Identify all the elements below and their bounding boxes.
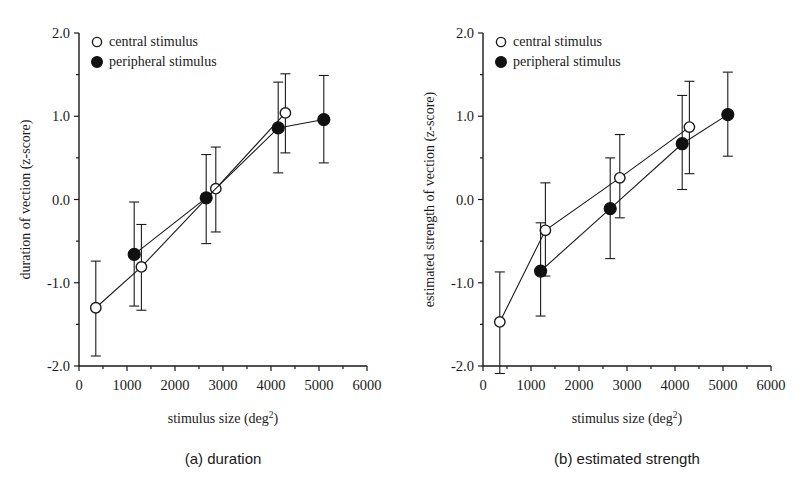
x-axis-label-tail: ) [678, 411, 683, 427]
y-tick-label: 0.0 [52, 192, 70, 208]
legend-label-peripheral: peripheral stimulus [109, 54, 217, 69]
x-tick-label: 2000 [161, 377, 190, 393]
x-tick-label: 1000 [113, 377, 142, 393]
data-point-central [495, 317, 505, 327]
x-axis-label-tail: ) [274, 411, 279, 427]
data-point-central [91, 303, 101, 313]
y-axis-label: duration of vection (z-score) [18, 119, 34, 279]
x-tick-label: 5000 [709, 377, 738, 393]
panel-caption: (b) estimated strength [554, 450, 700, 467]
x-tick-label: 6000 [353, 377, 382, 393]
panel-caption-text: duration [207, 450, 261, 467]
y-tick-label: 1.0 [456, 108, 474, 124]
legend-label-peripheral: peripheral stimulus [513, 54, 621, 69]
x-tick-label: 5000 [305, 377, 334, 393]
data-point-peripheral [722, 109, 734, 121]
duration-chart-svg: -2.0-1.00.01.02.001000200030004000500060… [0, 0, 404, 483]
x-axis-label-main: stimulus size (deg [572, 411, 673, 427]
x-tick-label: 4000 [661, 377, 690, 393]
data-point-central [280, 108, 290, 118]
y-tick-label: 2.0 [456, 25, 474, 41]
figure-container: -2.0-1.00.01.02.001000200030004000500060… [0, 0, 808, 483]
series-line-peripheral [134, 120, 324, 255]
legend-marker-central [496, 37, 505, 46]
panel-caption-text: estimated strength [577, 450, 700, 467]
panel-caption-tag: (b) [554, 450, 577, 467]
y-axis-label: estimated strength of vection (z-score) [422, 91, 438, 307]
y-tick-label: 1.0 [52, 108, 70, 124]
legend-marker-peripheral [92, 57, 103, 68]
data-point-peripheral [272, 122, 284, 134]
x-tick-label: 0 [479, 377, 486, 393]
legend-marker-peripheral [496, 57, 507, 68]
x-tick-label: 2000 [565, 377, 594, 393]
y-tick-label: 2.0 [52, 25, 70, 41]
panel-b-plot: -2.0-1.00.01.02.001000200030004000500060… [422, 25, 786, 467]
data-point-peripheral [535, 265, 547, 277]
y-tick-label: -1.0 [451, 275, 474, 291]
x-axis-label: stimulus size (deg2) [168, 410, 279, 427]
x-tick-label: 0 [75, 377, 82, 393]
series-line-peripheral [541, 115, 728, 272]
x-tick-label: 4000 [257, 377, 286, 393]
y-tick-label: -1.0 [47, 275, 70, 291]
series-line-central [500, 127, 690, 322]
x-tick-label: 1000 [517, 377, 546, 393]
panel-a-plot: -2.0-1.00.01.02.001000200030004000500060… [18, 25, 382, 467]
data-point-central [540, 225, 550, 235]
chart-panel-estimated-strength: -2.0-1.00.01.02.001000200030004000500060… [404, 0, 808, 483]
y-tick-label: -2.0 [451, 358, 474, 374]
data-point-peripheral [318, 114, 330, 126]
x-tick-label: 3000 [613, 377, 642, 393]
data-point-central [136, 262, 146, 272]
legend-label-central: central stimulus [513, 34, 602, 49]
x-axis-label-main: stimulus size (deg [168, 411, 269, 427]
panel-caption: (a) duration [185, 450, 262, 467]
data-point-peripheral [676, 138, 688, 150]
data-point-peripheral [200, 192, 212, 204]
data-point-peripheral [604, 203, 616, 215]
data-point-peripheral [128, 248, 140, 260]
chart-panel-duration: -2.0-1.00.01.02.001000200030004000500060… [0, 0, 404, 483]
estimated-strength-chart-svg: -2.0-1.00.01.02.001000200030004000500060… [404, 0, 808, 483]
x-axis-label: stimulus size (deg2) [572, 410, 683, 427]
y-tick-label: -2.0 [47, 358, 70, 374]
y-tick-label: 0.0 [456, 192, 474, 208]
panel-caption-tag: (a) [185, 450, 208, 467]
legend-label-central: central stimulus [109, 34, 198, 49]
x-tick-label: 3000 [209, 377, 238, 393]
x-tick-label: 6000 [757, 377, 786, 393]
legend-marker-central [92, 37, 101, 46]
data-point-central [615, 173, 625, 183]
data-point-central [684, 122, 694, 132]
